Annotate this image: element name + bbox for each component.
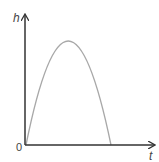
y-axis-label: h [13, 11, 20, 25]
curve-h-of-t [26, 41, 111, 145]
chart-canvas: h t 0 [0, 0, 159, 162]
origin-label: 0 [16, 141, 22, 153]
x-axis-label: t [149, 149, 153, 162]
